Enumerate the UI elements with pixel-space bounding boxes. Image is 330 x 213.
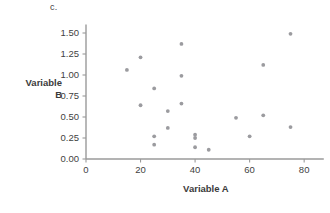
data-point <box>289 32 293 36</box>
data-point <box>234 116 238 120</box>
data-point <box>193 133 197 137</box>
x-tick-label: 20 <box>135 164 146 175</box>
data-points-group <box>125 32 292 152</box>
data-point <box>166 126 170 130</box>
y-axis-label-line-1: Variable <box>26 77 62 88</box>
data-point <box>180 74 184 78</box>
data-point <box>152 143 156 147</box>
data-point <box>125 68 129 72</box>
data-point <box>152 87 156 91</box>
x-tick-label: 0 <box>83 164 88 175</box>
data-point <box>152 134 156 138</box>
data-point <box>139 55 143 59</box>
data-point <box>261 63 265 67</box>
x-tick-label: 60 <box>244 164 255 175</box>
y-tick-label: 1.25 <box>61 48 80 59</box>
y-tick-label: 1.00 <box>61 69 80 80</box>
data-point <box>193 136 197 140</box>
y-tick-label: 1.50 <box>61 27 80 38</box>
x-axis-ticks: 020406080 <box>83 159 309 175</box>
x-tick-label: 40 <box>190 164 201 175</box>
data-point <box>139 103 143 107</box>
data-point <box>261 113 265 117</box>
y-axis-label-line-2: B <box>55 89 62 100</box>
data-point <box>180 42 184 46</box>
data-point <box>166 109 170 113</box>
y-tick-label: 0.50 <box>61 111 80 122</box>
data-point <box>207 148 211 152</box>
y-tick-label: 0.25 <box>61 132 80 143</box>
data-point <box>289 125 293 129</box>
y-axis-ticks: 0.000.250.500.751.001.251.50 <box>61 27 87 164</box>
y-tick-label: 0.00 <box>61 153 80 164</box>
scatter-plot-figure: c. 0.000.250.500.751.001.251.50 02040608… <box>0 0 330 213</box>
x-tick-label: 80 <box>299 164 310 175</box>
y-tick-label: 0.75 <box>61 90 80 101</box>
x-axis-label: Variable A <box>183 183 229 194</box>
data-point <box>248 134 252 138</box>
data-point <box>180 102 184 106</box>
data-point <box>193 145 197 149</box>
scatter-plot-svg: 0.000.250.500.751.001.251.50 020406080 V… <box>0 0 330 213</box>
